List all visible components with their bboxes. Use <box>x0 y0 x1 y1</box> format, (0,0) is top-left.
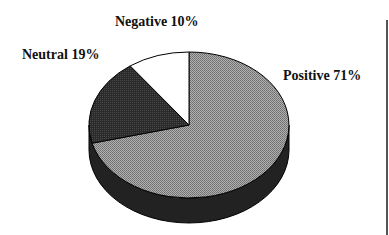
label-neutral: Neutral 19% <box>22 47 99 63</box>
label-positive: Positive 71% <box>283 68 361 84</box>
chart-frame-border <box>386 20 388 235</box>
label-negative: Negative 10% <box>115 14 199 30</box>
pie-chart <box>0 0 389 235</box>
